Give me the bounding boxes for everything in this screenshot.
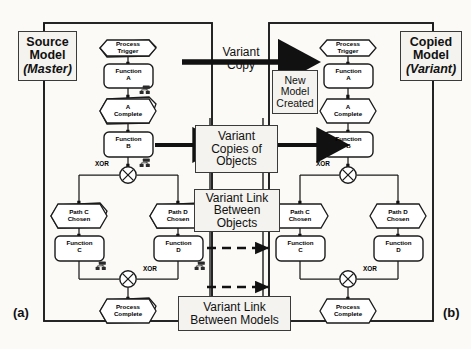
right-xor-join-label: XOR bbox=[363, 265, 377, 272]
variant-copy-label: Variant Copy bbox=[205, 46, 277, 71]
event-process-trigger bbox=[320, 40, 376, 56]
source-model-line2: Model bbox=[29, 49, 65, 62]
left-xor-connectors bbox=[120, 167, 136, 287]
event-path-c-chosen bbox=[272, 204, 328, 228]
caption-a: (a) bbox=[13, 305, 29, 320]
function-d bbox=[154, 236, 203, 261]
variant-link-between-objects-box: Variant Link Between Objects bbox=[194, 189, 280, 232]
function-b bbox=[324, 132, 373, 157]
function-c bbox=[276, 236, 325, 261]
right-xor-connectors bbox=[340, 167, 356, 287]
source-model-line3: (Master) bbox=[23, 63, 72, 76]
function-c bbox=[55, 236, 104, 261]
left-xor-split-label: XOR bbox=[95, 160, 109, 167]
variant-copies-of-objects-box: Variant Copies of Objects bbox=[195, 125, 278, 173]
function-a bbox=[324, 64, 373, 88]
copied-model-line2: Model bbox=[413, 49, 449, 62]
right-xor-split-label: XOR bbox=[316, 160, 330, 167]
function-b bbox=[104, 132, 153, 157]
copied-model-line3: (Variant) bbox=[406, 63, 456, 76]
left-xor-join-label: XOR bbox=[143, 265, 157, 272]
function-a bbox=[104, 64, 153, 88]
left-functions bbox=[55, 64, 203, 261]
variant-link-between-models-box: Variant Link Between Models bbox=[178, 296, 291, 331]
event-a-complete bbox=[320, 99, 376, 123]
figure-canvas: Process Trigger Function A A Complete Fu… bbox=[0, 0, 471, 349]
function-d bbox=[374, 236, 423, 261]
event-process-complete bbox=[320, 299, 376, 323]
event-path-d-chosen bbox=[370, 204, 426, 228]
source-model-title-box: Source Model (Master) bbox=[18, 31, 77, 81]
copied-model-title-box: Copied Model (Variant) bbox=[400, 31, 462, 81]
caption-b: (b) bbox=[443, 305, 460, 320]
new-model-created-box: New Model Created bbox=[272, 70, 318, 114]
